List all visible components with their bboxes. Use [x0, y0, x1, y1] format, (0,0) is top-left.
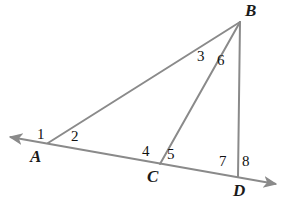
- segment-AB: [48, 22, 240, 143]
- vertex-label-B: B: [245, 2, 256, 19]
- vertex-label-D: D: [233, 182, 245, 199]
- angle-label-5: 5: [167, 147, 175, 162]
- vertex-label-A: A: [30, 148, 41, 165]
- angle-label-1: 1: [37, 127, 45, 142]
- angle-label-8: 8: [242, 154, 250, 169]
- angle-label-4: 4: [142, 144, 150, 159]
- angle-label-2: 2: [71, 129, 79, 144]
- vertex-label-C: C: [147, 168, 158, 185]
- segment-BC: [160, 22, 240, 164]
- angle-label-6: 6: [217, 53, 225, 68]
- segment-BD: [238, 22, 240, 177]
- angle-label-3: 3: [197, 49, 205, 64]
- geometry-figure: B A C D 1 2 3 4 5 6 7 8: [0, 0, 290, 215]
- geometry-canvas: [0, 0, 290, 215]
- angle-label-7: 7: [219, 154, 227, 169]
